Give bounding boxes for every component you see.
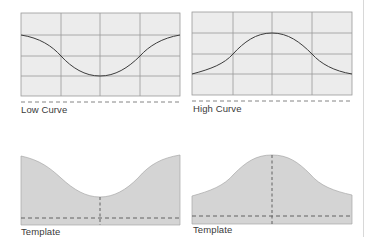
high-curve-chart — [192, 12, 352, 101]
page-edge-divider — [363, 0, 364, 237]
low-template-shape — [21, 155, 180, 225]
high-template-label: Template — [193, 224, 232, 235]
low-template-label: Template — [21, 226, 60, 237]
diagram-canvas — [0, 0, 365, 237]
high-template-shape — [192, 155, 352, 224]
low-curve-chart — [21, 13, 180, 102]
high-curve-label: High Curve — [193, 103, 242, 114]
low-curve-label: Low Curve — [21, 104, 67, 115]
